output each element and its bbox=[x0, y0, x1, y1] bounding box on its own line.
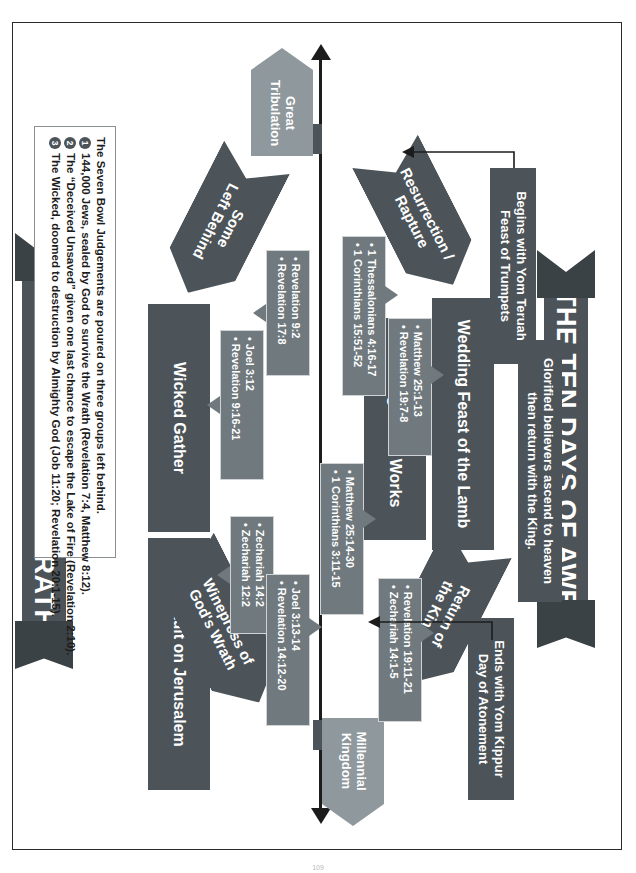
note-glorified-believers: Glorified believers ascend to heaven the… bbox=[518, 340, 562, 602]
banner-awe-tail-right bbox=[537, 600, 595, 648]
refs-winepress: Joel 3:13-14 Revelation 14:12-20 bbox=[266, 574, 310, 726]
note-begins-yom-teruah: Begins with Yom Teruah Feast of Trumpets bbox=[490, 168, 536, 364]
legend-number-badge: 3 bbox=[49, 137, 61, 149]
refs-resurrection-rapture-pointer bbox=[385, 286, 398, 304]
refs-assault-list: Zechariah 14:2 Zechariah 12:2 bbox=[239, 523, 267, 627]
begins-note-l2: Feast of Trumpets bbox=[498, 210, 513, 322]
refs-wicked-gather-pointer bbox=[207, 396, 220, 414]
legend-item: 2 The “Deceived Unsaved” given one last … bbox=[64, 137, 77, 547]
refs-testing-pointer bbox=[363, 510, 376, 528]
ref-item: 1 Corinthians 3:11-15 bbox=[329, 479, 343, 608]
legend-item: 1 144,000 Jews, sealed by God to survive… bbox=[79, 137, 92, 547]
signpost-millennial-point bbox=[322, 804, 384, 826]
ref-item: Zechariah 14:2 bbox=[253, 532, 267, 627]
legend-item: 3 The Wicked, doomed to destruction by A… bbox=[49, 137, 62, 547]
refs-wedding-feast-pointer bbox=[431, 366, 444, 384]
refs-wedding-feast: Matthew 25:1-13 Revelation 19:7-8 bbox=[388, 318, 432, 456]
legend-item-text: The “Deceived Unsaved” given one last ch… bbox=[65, 153, 77, 655]
legend-box: The Seven Bowl Judgements are poured on … bbox=[34, 126, 116, 558]
ref-item: Matthew 25:1-13 bbox=[411, 334, 425, 449]
refs-some-left-behind: Revelation 9:2 Revelation 17:8 bbox=[266, 250, 310, 376]
refs-winepress-list: Joel 3:13-14 Revelation 14:12-20 bbox=[275, 581, 303, 719]
great-tribulation-label-2: Tribulation bbox=[268, 80, 283, 146]
ref-item: Revelation 17:8 bbox=[275, 266, 289, 369]
ends-note-l1: Ends with Yom Kippur bbox=[492, 640, 507, 777]
refs-some-left-behind-list: Revelation 9:2 Revelation 17:8 bbox=[275, 257, 303, 369]
ref-item: Matthew 25:14-30 bbox=[343, 479, 357, 608]
ref-item: Revelation 14:12-20 bbox=[275, 590, 289, 719]
great-tribulation-label-1: Great bbox=[283, 96, 298, 130]
page-number: 109 bbox=[0, 864, 636, 871]
page-canvas: Millennial Kingdom Great Tribulation bbox=[0, 0, 636, 873]
refs-some-left-behind-pointer bbox=[253, 304, 266, 322]
signpost-millennial-kingdom: Millennial Kingdom bbox=[322, 718, 384, 826]
banner-awe-tail-left bbox=[537, 250, 595, 298]
refs-assault-pointer bbox=[217, 566, 230, 584]
refs-wicked-gather: Joel 3:12 Revelation 9:16-21 bbox=[220, 330, 264, 480]
note-ends-yom-kippur: Ends with Yom Kippur Day of Atonement bbox=[468, 618, 514, 800]
ref-item: Revelation 9:2 bbox=[289, 266, 303, 369]
ref-item: Revelation 9:16-21 bbox=[229, 346, 243, 473]
refs-return-of-the-king: Revelation 19:11-21 Zechariah 14:1-5 bbox=[378, 578, 422, 722]
connector-ends bbox=[368, 614, 492, 640]
ends-note-l2: Day of Atonement bbox=[476, 654, 491, 765]
signpost-tribulation-point bbox=[251, 48, 313, 70]
refs-testing-list: Matthew 25:14-30 1 Corinthians 3:11-15 bbox=[329, 470, 357, 608]
legend-number-badge: 2 bbox=[64, 137, 76, 149]
ref-item: 1 Corinthians 15:51-52 bbox=[351, 252, 365, 389]
timeline-axis bbox=[320, 58, 323, 814]
ref-item: Zechariah 12:2 bbox=[239, 532, 253, 627]
glorified-note-l1: Glorified believers ascend to heaven bbox=[541, 358, 556, 584]
legend-number-badge: 1 bbox=[79, 137, 91, 149]
refs-resurrection-rapture-list: 1 Thessalonians 4:16-17 1 Corinthians 15… bbox=[351, 243, 379, 389]
ref-item: Revelation 19:7-8 bbox=[397, 334, 411, 449]
glorified-note-l2: then return with the King. bbox=[525, 392, 540, 549]
wicked-gather-label: Wicked Gather bbox=[171, 362, 188, 474]
wedding-feast-label: Wedding Feast of the Lamb bbox=[455, 320, 472, 529]
signpost-tribulation-post bbox=[313, 124, 322, 154]
begins-note-l1: Begins with Yom Teruah bbox=[514, 191, 529, 341]
diagram-inner: Millennial Kingdom Great Tribulation bbox=[14, 18, 622, 854]
refs-wedding-feast-list: Matthew 25:1-13 Revelation 19:7-8 bbox=[397, 325, 425, 449]
rotated-diagram-canvas: Millennial Kingdom Great Tribulation bbox=[0, 0, 636, 873]
refs-testing-of-the-works: Matthew 25:14-30 1 Corinthians 3:11-15 bbox=[320, 463, 364, 615]
signpost-millennial-post bbox=[313, 720, 322, 750]
ref-item: Joel 3:12 bbox=[243, 346, 257, 473]
stage-wedding-feast-of-the-lamb: Wedding Feast of the Lamb bbox=[432, 298, 494, 550]
refs-winepress-pointer bbox=[309, 618, 322, 636]
legend-item-text: 144,000 Jews, sealed by God to survive t… bbox=[80, 153, 92, 595]
legend-item-text: The Wicked, doomed to destruction by Alm… bbox=[50, 153, 62, 617]
ref-item: Revelation 19:11-21 bbox=[401, 594, 415, 715]
ref-item: 1 Thessalonians 4:16-17 bbox=[365, 252, 379, 389]
ref-item: Joel 3:13-14 bbox=[289, 590, 303, 719]
refs-return-king-list: Revelation 19:11-21 Zechariah 14:1-5 bbox=[387, 585, 415, 715]
legend-intro: The Seven Bowl Judgements are poured on … bbox=[95, 137, 107, 547]
millennial-kingdom-label: Millennial Kingdom bbox=[339, 731, 369, 790]
refs-wicked-gather-list: Joel 3:12 Revelation 9:16-21 bbox=[229, 337, 257, 473]
ref-item: Zechariah 14:1-5 bbox=[387, 594, 401, 715]
refs-resurrection-rapture: 1 Thessalonians 4:16-17 1 Corinthians 15… bbox=[342, 236, 386, 396]
connector-begins bbox=[402, 148, 514, 172]
stage-wicked-gather: Wicked Gather bbox=[148, 304, 210, 532]
signpost-great-tribulation: Great Tribulation bbox=[250, 48, 322, 156]
